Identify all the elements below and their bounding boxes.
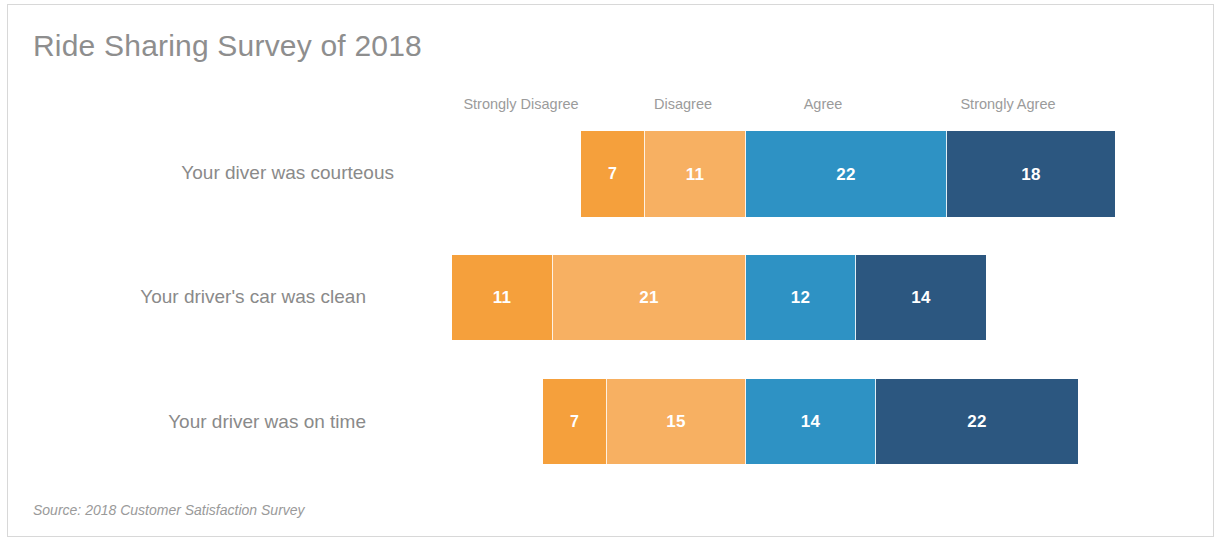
- page-border-right: [1213, 4, 1214, 537]
- legend-item-1: Strongly Disagree: [463, 96, 578, 112]
- bar-segment[interactable]: 21: [553, 255, 746, 340]
- bar-segment[interactable]: 14: [746, 379, 876, 464]
- bar-row: 7151422: [543, 379, 1078, 464]
- legend-item-3: Agree: [804, 96, 843, 112]
- slide-canvas: Ride Sharing Survey of 2018 Strongly Dis…: [0, 0, 1223, 541]
- bar-row: 11211214: [452, 255, 986, 340]
- legend-item-2: Disagree: [654, 96, 712, 112]
- category-label-2: Your driver's car was clean: [0, 286, 366, 308]
- bar-segment[interactable]: 7: [543, 379, 607, 464]
- bar-row: 7112218: [581, 131, 1115, 217]
- category-label-1: Your diver was courteous: [0, 162, 394, 184]
- bar-segment-value: 14: [801, 413, 821, 430]
- bar-segment[interactable]: 14: [856, 255, 986, 340]
- bar-segment[interactable]: 18: [947, 131, 1115, 217]
- bar-segment-value: 11: [493, 289, 512, 306]
- bar-segment[interactable]: 11: [452, 255, 553, 340]
- bar-segment-value: 14: [911, 289, 931, 306]
- bar-segment-value: 18: [1021, 166, 1041, 183]
- bar-segment-value: 12: [791, 289, 811, 306]
- bar-segment[interactable]: 15: [607, 379, 746, 464]
- page-title: Ride Sharing Survey of 2018: [33, 29, 422, 63]
- bar-segment-value: 7: [570, 414, 579, 430]
- page-border-left: [7, 4, 8, 537]
- bar-segment-value: 15: [666, 413, 686, 430]
- legend-item-4: Strongly Agree: [960, 96, 1055, 112]
- bar-segment-value: 22: [836, 166, 856, 183]
- bar-segment[interactable]: 22: [746, 131, 947, 217]
- page-border-top: [7, 4, 1214, 5]
- bar-segment[interactable]: 7: [581, 131, 645, 217]
- bar-segment-value: 7: [608, 166, 617, 182]
- source-note: Source: 2018 Customer Satisfaction Surve…: [33, 502, 305, 518]
- bar-segment-value: 11: [686, 166, 705, 183]
- bar-segment-value: 22: [967, 413, 987, 430]
- bar-segment[interactable]: 11: [645, 131, 746, 217]
- bar-segment[interactable]: 12: [746, 255, 856, 340]
- bar-segment[interactable]: 22: [876, 379, 1078, 464]
- category-label-3: Your driver was on time: [0, 411, 366, 433]
- page-border-bottom: [7, 536, 1214, 537]
- bar-segment-value: 21: [639, 289, 659, 306]
